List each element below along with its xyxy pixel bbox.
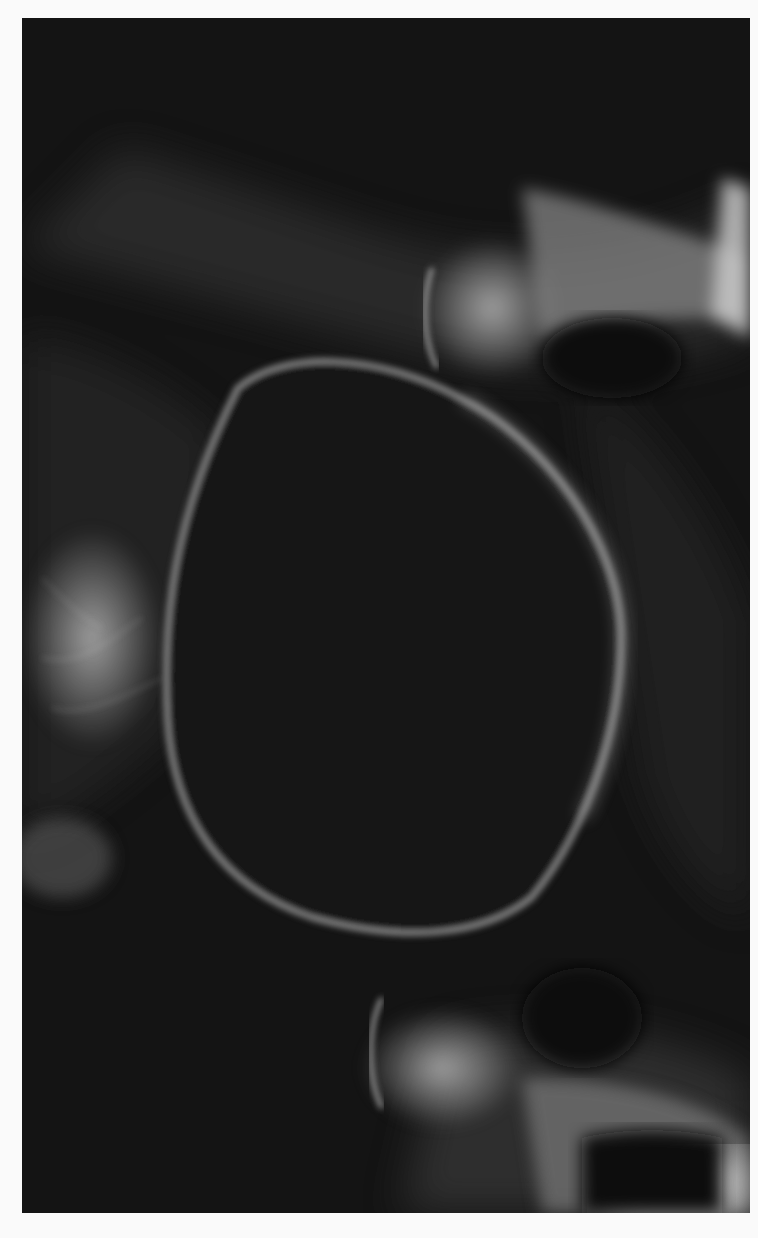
xray-drawing xyxy=(22,18,750,1213)
xray-image xyxy=(22,18,750,1213)
